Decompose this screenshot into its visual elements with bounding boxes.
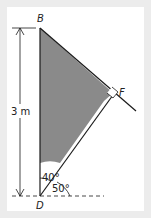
triangle-diagram: 3 m B F D 40° 50° — [0, 0, 151, 218]
point-label-f: F — [119, 87, 125, 98]
point-label-d: D — [36, 200, 44, 211]
shaded-region — [40, 28, 113, 163]
point-label-b: B — [37, 13, 44, 24]
length-label: 3 m — [11, 106, 30, 117]
angle-label-40: 40° — [42, 172, 60, 183]
diagram-frame: 3 m B F D 40° 50° — [0, 0, 151, 218]
angle-label-50: 50° — [52, 183, 70, 194]
